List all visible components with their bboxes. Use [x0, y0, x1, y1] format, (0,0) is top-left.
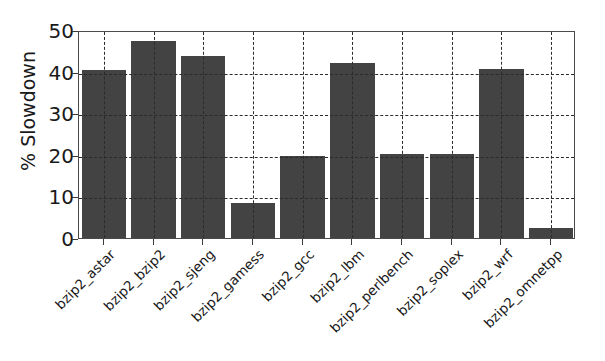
x-tick-mark: [153, 239, 154, 245]
y-tick-mark: [72, 239, 78, 240]
y-tick-mark: [72, 73, 78, 74]
gridline-vertical: [551, 32, 552, 238]
gridline-vertical: [402, 32, 403, 238]
x-tick-mark: [500, 239, 501, 245]
y-tick-mark: [72, 156, 78, 157]
y-tick-label: 10: [49, 187, 74, 207]
y-tick-label: 20: [49, 146, 74, 166]
y-tick-label: 30: [49, 104, 74, 124]
gridline-vertical: [452, 32, 453, 238]
x-tick-mark: [202, 239, 203, 245]
y-tick-mark: [72, 114, 78, 115]
y-tick-mark: [72, 31, 78, 32]
gridline-vertical: [501, 32, 502, 238]
bar-chart: % Slowdown 01020304050 bzip2_astarbzip2_…: [0, 0, 605, 361]
gridline-vertical: [352, 32, 353, 238]
x-tick-mark: [302, 239, 303, 245]
x-tick-mark: [451, 239, 452, 245]
x-tick-mark: [550, 239, 551, 245]
x-tick-label: bzip2_perlbench: [327, 246, 417, 336]
gridline-vertical: [104, 32, 105, 238]
x-tick-mark: [252, 239, 253, 245]
gridline-vertical: [303, 32, 304, 238]
x-tick-mark: [103, 239, 104, 245]
y-tick-mark: [72, 197, 78, 198]
y-tick-labels: 01020304050: [30, 31, 74, 239]
y-tick-label: 50: [49, 21, 74, 41]
x-tick-mark: [351, 239, 352, 245]
gridline-vertical: [253, 32, 254, 238]
plot-area: [78, 31, 575, 239]
y-tick-label: 40: [49, 63, 74, 83]
x-tick-mark: [401, 239, 402, 245]
gridline-vertical: [154, 32, 155, 238]
gridline-vertical: [203, 32, 204, 238]
